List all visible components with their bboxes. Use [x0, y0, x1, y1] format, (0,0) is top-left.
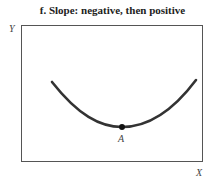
y-axis-label: Y — [9, 23, 16, 34]
point-a-marker — [119, 124, 125, 130]
point-a-label: A — [117, 133, 125, 144]
u-curve — [52, 80, 196, 127]
plot-frame — [22, 26, 203, 162]
x-axis-label: X — [195, 167, 203, 178]
chart-canvas: Y X A — [0, 0, 211, 182]
